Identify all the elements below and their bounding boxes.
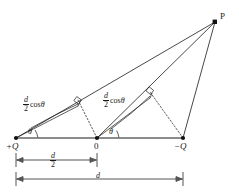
rays-to-point-p bbox=[16, 22, 215, 138]
dashed-minusq-to-foot bbox=[150, 92, 183, 138]
marker-origin bbox=[95, 136, 99, 140]
dim-half-arrow-right bbox=[90, 158, 96, 163]
charge-label-plus-q: +Q bbox=[6, 142, 19, 151]
projection-label-mid: d 2 cosθ bbox=[103, 92, 125, 110]
fraction-denominator: 2 bbox=[103, 100, 109, 109]
brace-arcs bbox=[31, 96, 150, 129]
cos-variable: θ bbox=[41, 100, 45, 109]
dim-half-arrow-left bbox=[17, 158, 23, 163]
dimension-label-half-d: d 2 bbox=[50, 152, 56, 170]
dashed-origin-to-foot bbox=[78, 100, 97, 138]
charge-label-minus-q: −Q bbox=[174, 142, 187, 151]
fraction-denominator: 2 bbox=[50, 160, 56, 169]
cos-variable: θ bbox=[121, 96, 125, 105]
dipole-figure: P +Q 0 −Q θ θ d 2 cosθ d 2 cosθ d 2 d bbox=[0, 0, 239, 193]
fraction-d-over-2-dim: d 2 bbox=[50, 152, 56, 170]
origin-label: 0 bbox=[94, 142, 99, 151]
fraction-numerator: d bbox=[23, 96, 29, 104]
fraction-numerator: d bbox=[103, 92, 109, 100]
angle-label-theta-mid: θ bbox=[109, 128, 113, 136]
cos-function-name: cos bbox=[110, 96, 121, 105]
marker-plusq bbox=[14, 136, 18, 140]
dimension-label-full-d: d bbox=[96, 172, 100, 180]
cosine-term-left: cosθ bbox=[30, 101, 45, 109]
projection-label-left: d 2 cosθ bbox=[23, 96, 45, 114]
angle-label-theta-left: θ bbox=[28, 128, 32, 136]
dim-full-arrow-left bbox=[17, 177, 23, 182]
fraction-d-over-2-left: d 2 bbox=[23, 96, 29, 114]
ray-minusq-to-p bbox=[183, 22, 215, 138]
fraction-denominator: 2 bbox=[23, 104, 29, 113]
dim-full-arrow-right bbox=[176, 177, 182, 182]
marker-minusq bbox=[181, 136, 185, 140]
angle-arc-theta-left bbox=[35, 130, 38, 138]
fraction-d-over-2-mid: d 2 bbox=[103, 92, 109, 110]
ray-plusq-to-p bbox=[16, 22, 215, 138]
point-label-p: P bbox=[220, 12, 225, 21]
fraction-numerator: d bbox=[50, 152, 56, 160]
right-angle-mark-mid bbox=[146, 87, 154, 95]
angle-arc-theta-mid bbox=[117, 131, 119, 139]
marker-point-p bbox=[213, 20, 217, 24]
perpendicular-dashed-lines bbox=[78, 92, 183, 138]
ray-origin-to-p bbox=[97, 22, 215, 138]
cosine-term-mid: cosθ bbox=[110, 97, 125, 105]
dimension-half-d bbox=[16, 153, 97, 167]
cos-function-name: cos bbox=[30, 100, 41, 109]
